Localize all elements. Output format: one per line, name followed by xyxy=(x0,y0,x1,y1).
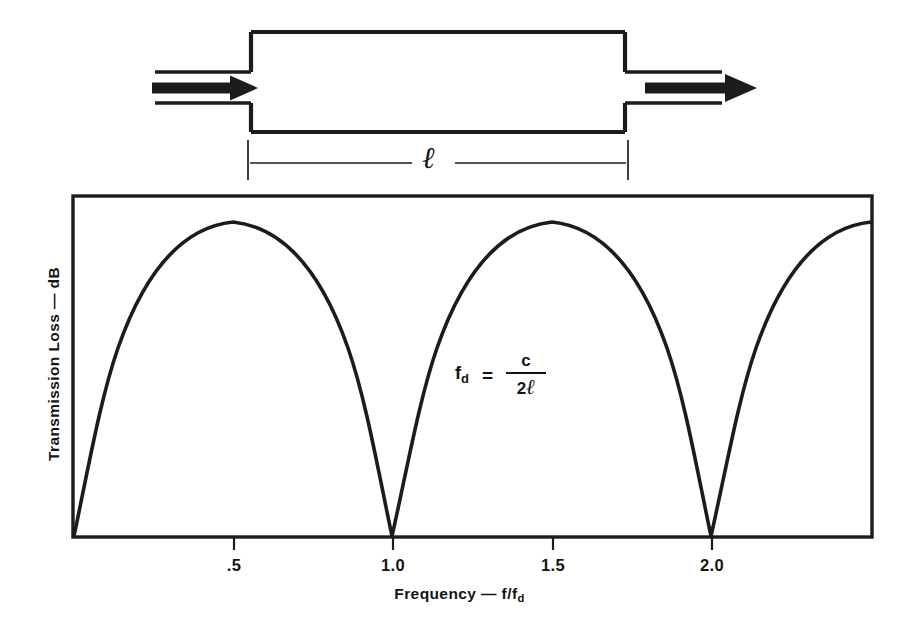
x-axis-title-text: Frequency — f/f xyxy=(394,585,517,602)
formula-denominator-coefficient: 2 xyxy=(517,379,526,398)
flow-in-arrow-icon xyxy=(152,76,258,101)
formula-equals-sign: = xyxy=(482,366,493,385)
formula-fraction: c 2ℓ xyxy=(506,352,546,398)
expansion-chamber-body xyxy=(251,32,625,132)
formula-denominator-symbol: ℓ xyxy=(526,375,535,399)
flow-out-arrow-icon xyxy=(645,74,757,102)
y-axis-title: Transmission Loss — dB xyxy=(45,214,63,514)
x-axis-title: Frequency — f/fd xyxy=(0,585,919,604)
length-dimension xyxy=(248,140,628,180)
schematic-svg xyxy=(0,0,919,636)
figure-root: ℓ .5 1.0 1.5 2.0 Frequency — f/fd Transm… xyxy=(0,0,919,636)
cutoff-frequency-formula: fd = c 2ℓ xyxy=(455,352,546,398)
formula-lhs-subscript: d xyxy=(461,371,469,386)
formula-lhs: fd xyxy=(455,364,469,386)
x-tick-label-1-0: 1.0 xyxy=(381,556,405,575)
formula-denominator: 2ℓ xyxy=(510,374,543,398)
x-tick-label-0-5: .5 xyxy=(227,556,241,575)
formula-numerator: c xyxy=(514,352,537,372)
x-tick-label-2-0: 2.0 xyxy=(700,556,724,575)
chamber-length-label: ℓ xyxy=(422,143,435,173)
x-axis-ticks xyxy=(234,537,712,550)
x-axis-title-subscript: d xyxy=(517,592,524,604)
x-tick-label-1-5: 1.5 xyxy=(541,556,565,575)
